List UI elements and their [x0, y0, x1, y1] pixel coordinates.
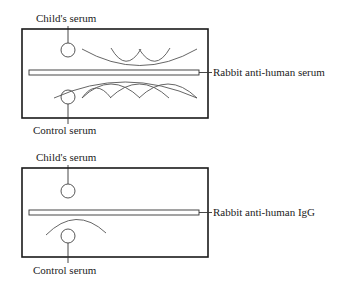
child-serum-label: Child's serum	[36, 151, 97, 163]
panel-top: Child's serum Control serum Rabbit anti-…	[22, 12, 325, 136]
trough-label: Rabbit anti-human IgG	[213, 206, 315, 218]
panel-bottom: Child's serum Control serum Rabbit anti-…	[22, 151, 315, 276]
immunoelectrophoresis-diagram: Child's serum Control serum Rabbit anti-…	[0, 0, 344, 283]
precipitin-arc	[82, 88, 111, 98]
control-serum-well	[61, 229, 75, 243]
child-serum-well	[61, 43, 75, 57]
precipitin-arc	[139, 84, 197, 98]
antiserum-trough	[29, 210, 199, 215]
precipitin-arc	[46, 219, 106, 235]
antiserum-trough	[29, 70, 199, 75]
precipitin-arc	[54, 82, 197, 98]
precipitin-arc	[139, 48, 170, 61]
child-serum-label: Child's serum	[36, 12, 97, 24]
control-serum-label: Control serum	[33, 264, 97, 276]
precipitin-arc	[111, 48, 141, 61]
trough-label: Rabbit anti-human serum	[213, 66, 325, 78]
control-serum-label: Control serum	[33, 124, 97, 136]
child-serum-well	[61, 184, 75, 198]
